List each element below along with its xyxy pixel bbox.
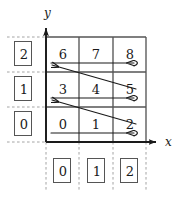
grid-cell-0: 0 bbox=[53, 118, 73, 131]
grid-cell-7: 7 bbox=[86, 48, 106, 61]
grid-cell-2: 2 bbox=[120, 118, 140, 131]
grid-cell-1: 1 bbox=[86, 118, 106, 131]
grid-cell-5: 5 bbox=[120, 83, 140, 96]
figure-canvas: y x 6 7 8 3 4 5 0 1 2 2 1 0 0 1 2 bbox=[0, 0, 179, 204]
x-index-box-1-label: 1 bbox=[88, 165, 106, 178]
x-index-box-0-label: 0 bbox=[54, 165, 72, 178]
x-index-box-2: 2 bbox=[120, 158, 138, 183]
y-axis-label: y bbox=[44, 7, 51, 19]
grid-cell-3: 3 bbox=[53, 83, 73, 96]
grid-cell-6: 6 bbox=[53, 48, 73, 61]
grid-cell-8: 8 bbox=[120, 48, 140, 61]
y-index-box-2: 2 bbox=[14, 41, 32, 66]
y-index-box-0-label: 0 bbox=[15, 118, 33, 131]
grid-cell-4: 4 bbox=[86, 83, 106, 96]
x-axis-label: x bbox=[165, 136, 172, 148]
y-index-box-0: 0 bbox=[14, 111, 32, 136]
y-index-box-2-label: 2 bbox=[15, 48, 33, 61]
x-index-box-0: 0 bbox=[53, 158, 71, 183]
y-index-box-1: 1 bbox=[14, 76, 32, 101]
x-index-box-1: 1 bbox=[87, 158, 105, 183]
x-index-box-2-label: 2 bbox=[121, 165, 139, 178]
y-index-box-1-label: 1 bbox=[15, 83, 33, 96]
